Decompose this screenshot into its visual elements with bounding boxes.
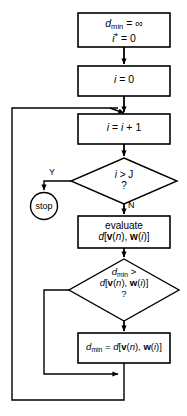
flowchart-canvas: dmin = ∞ i* = 0 i = 0 i = i + 1 i > J ? …: [0, 0, 187, 416]
node-init-shape: [78, 13, 170, 47]
edge-outer-loop-arrowhead: [110, 108, 124, 113]
node-update-min-shape: [78, 333, 170, 363]
node-test-bound-shape: [71, 158, 177, 204]
node-test-min-shape: [69, 259, 179, 321]
node-evaluate-shape: [78, 216, 170, 248]
node-stop-shape: [31, 193, 58, 220]
node-reset-i-shape: [78, 66, 170, 96]
node-increment-i-shape: [78, 114, 170, 144]
edge-test-bound-yes-to-stop: [44, 181, 71, 190]
flowchart-graphics: [0, 0, 187, 416]
